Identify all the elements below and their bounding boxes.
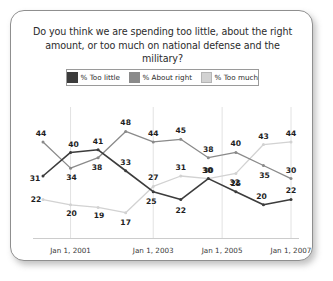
data-label: 35 — [259, 170, 270, 179]
legend-swatch-too-much — [201, 72, 212, 83]
data-point — [234, 151, 237, 154]
data-label: 22 — [175, 205, 186, 214]
data-label: 30 — [286, 165, 297, 174]
legend-item-too-little[interactable]: % Too little — [67, 72, 120, 83]
data-label: 25 — [146, 196, 157, 205]
data-point — [290, 177, 293, 180]
data-label: 38 — [203, 144, 214, 153]
data-label: 31 — [30, 174, 41, 183]
legend-item-too-much[interactable]: % Too much — [201, 72, 258, 83]
data-point — [290, 198, 293, 201]
data-label: 38 — [92, 162, 103, 171]
data-label: 41 — [93, 136, 104, 145]
data-label: 31 — [175, 163, 186, 172]
data-point — [152, 140, 155, 143]
data-point — [69, 167, 72, 170]
x-tick-label-1: Jan 1, 2003 — [133, 246, 174, 255]
data-label: 30 — [203, 165, 214, 174]
data-label: 44 — [36, 128, 47, 137]
data-point — [207, 177, 210, 180]
data-label: 44 — [148, 128, 159, 137]
data-label: 20 — [66, 208, 77, 217]
data-point — [152, 185, 155, 188]
legend-item-about-right[interactable]: % About right — [129, 72, 192, 83]
legend-label-too-much: % Too much — [215, 73, 258, 82]
data-point — [262, 143, 265, 146]
data-label: 32 — [230, 178, 241, 187]
data-point — [152, 190, 155, 193]
data-label: 27 — [148, 173, 159, 182]
data-point — [124, 130, 127, 133]
data-label: 40 — [68, 140, 79, 149]
data-point — [69, 203, 72, 206]
data-point — [262, 203, 265, 206]
data-label: 17 — [120, 217, 131, 226]
data-label: 45 — [175, 126, 186, 135]
data-point — [234, 172, 237, 175]
chart-card: Do you think we are spending too little,… — [10, 10, 313, 261]
data-point — [42, 175, 45, 178]
data-label: 20 — [256, 191, 267, 200]
data-point — [207, 156, 210, 159]
legend-swatch-too-little — [67, 72, 78, 83]
data-point — [124, 211, 127, 214]
data-point — [179, 175, 182, 178]
data-point — [42, 140, 45, 143]
data-label: 44 — [286, 128, 297, 137]
data-point — [262, 164, 265, 167]
line-chart-plot-area: 3140413325223025202244343848444538403530… — [33, 107, 299, 239]
data-point — [234, 190, 237, 193]
series-line-0 — [43, 150, 291, 205]
x-tick-label-0: Jan 1, 2001 — [50, 246, 91, 255]
data-label: 19 — [94, 211, 105, 220]
data-label: 48 — [120, 118, 131, 127]
legend-swatch-about-right — [129, 72, 140, 83]
legend-label-about-right: % About right — [142, 73, 192, 82]
data-point — [179, 138, 182, 141]
chart-legend: % Too little % About right % Too much — [66, 69, 259, 86]
data-label: 40 — [231, 139, 242, 148]
data-label: 22 — [286, 185, 297, 194]
chart-title: Do you think we are spending too little,… — [25, 25, 300, 66]
data-point — [42, 198, 45, 201]
series-line-2 — [43, 142, 291, 213]
data-label: 43 — [258, 131, 269, 140]
x-tick-label-2: Jan 1, 2005 — [202, 246, 243, 255]
data-label: 33 — [120, 157, 131, 166]
x-tick-label-3: Jan 1, 2007 — [271, 246, 312, 255]
data-point — [290, 140, 293, 143]
data-point — [97, 148, 100, 151]
data-point — [69, 151, 72, 154]
data-point — [97, 156, 100, 159]
data-point — [179, 198, 182, 201]
legend-label-too-little: % Too little — [81, 73, 120, 82]
data-label: 22 — [31, 194, 42, 203]
data-point — [124, 169, 127, 172]
x-axis-labels: Jan 1, 2001Jan 1, 2003Jan 1, 2005Jan 1, … — [33, 240, 299, 262]
data-label: 34 — [66, 173, 77, 182]
data-point — [97, 206, 100, 209]
